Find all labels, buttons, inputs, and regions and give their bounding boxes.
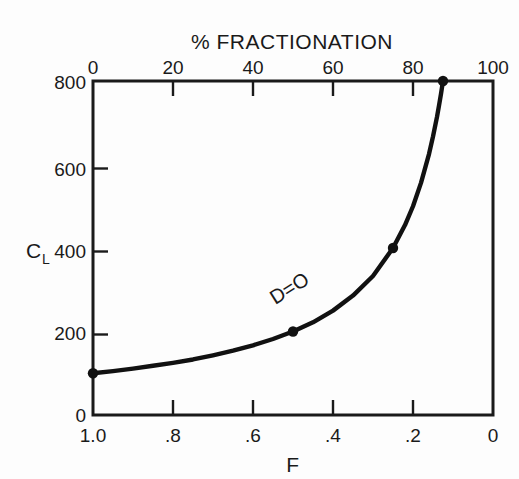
- top-tick-label-60: 60: [322, 57, 343, 78]
- data-point-marker: [88, 368, 98, 378]
- chart-canvas: % FRACTIONATION 0 20 40 60 80 100 800 60…: [0, 0, 519, 479]
- top-tick-label-0: 0: [88, 57, 99, 78]
- left-tick-label-400: 400: [54, 241, 86, 262]
- bottom-tick-label-0: 0: [488, 425, 499, 446]
- figure-container: % FRACTIONATION 0 20 40 60 80 100 800 60…: [0, 0, 519, 479]
- left-tick-label-800: 800: [54, 72, 86, 93]
- fractionation-curve: [93, 81, 443, 373]
- top-axis-title: % FRACTIONATION: [191, 30, 393, 53]
- bottom-axis-title: F: [286, 453, 299, 476]
- top-tick-label-100: 100: [477, 57, 509, 78]
- left-axis-ticks: [93, 169, 108, 335]
- top-tick-label-80: 80: [402, 57, 423, 78]
- bottom-axis-ticks: [173, 400, 413, 415]
- bottom-tick-label-0-2: .2: [405, 425, 421, 446]
- data-point-markers: [88, 76, 448, 379]
- left-tick-label-0: 0: [75, 405, 86, 426]
- data-point-marker: [388, 243, 398, 253]
- data-point-marker: [438, 76, 448, 86]
- top-tick-label-20: 20: [162, 57, 183, 78]
- left-tick-label-200: 200: [54, 323, 86, 344]
- bottom-tick-label-1-0: 1.0: [80, 425, 106, 446]
- y-axis-subscript: L: [42, 251, 50, 267]
- bottom-tick-label-0-8: .8: [165, 425, 181, 446]
- data-point-marker: [288, 326, 298, 336]
- bottom-tick-label-0-6: .6: [245, 425, 261, 446]
- bottom-tick-label-0-4: .4: [325, 425, 341, 446]
- top-axis-ticks: [173, 81, 413, 96]
- curve-annotation-label: D=O: [266, 268, 313, 309]
- top-tick-label-40: 40: [242, 57, 263, 78]
- left-tick-label-600: 600: [54, 159, 86, 180]
- y-axis-symbol: C: [26, 239, 41, 262]
